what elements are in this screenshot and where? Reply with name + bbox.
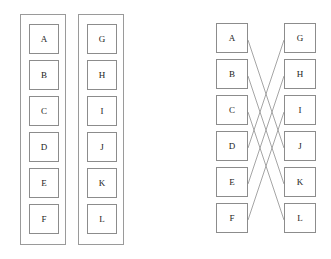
mapping-node-box[interactable]: E	[216, 167, 248, 197]
node-label: I	[299, 106, 302, 115]
mapping-node-box[interactable]: A	[216, 23, 248, 53]
node-label: D	[229, 142, 236, 151]
node-label: C	[229, 106, 235, 115]
mapping-edge	[248, 112, 284, 220]
edge-layer	[0, 0, 331, 259]
node-label: F	[229, 214, 234, 223]
node-label: E	[229, 178, 235, 187]
node-label: A	[229, 34, 236, 43]
mapping-edge	[248, 76, 284, 184]
mapping-edge	[248, 112, 284, 220]
node-label: L	[297, 214, 303, 223]
mapping-figure: A B C D E F G H I J K L	[0, 0, 331, 259]
mapping-node-box[interactable]: G	[284, 23, 316, 53]
node-label: J	[298, 142, 302, 151]
node-label: H	[297, 70, 304, 79]
mapping-node-box[interactable]: J	[284, 131, 316, 161]
node-label: K	[297, 178, 304, 187]
mapping-node-box[interactable]: H	[284, 59, 316, 89]
mapping-edge	[248, 40, 284, 148]
node-label: G	[297, 34, 304, 43]
figure-canvas: A B C D E F G H I J K L A B C D E F G H …	[0, 0, 331, 259]
node-label: B	[229, 70, 235, 79]
mapping-node-box[interactable]: L	[284, 203, 316, 233]
mapping-node-box[interactable]: C	[216, 95, 248, 125]
mapping-node-box[interactable]: D	[216, 131, 248, 161]
mapping-node-box[interactable]: B	[216, 59, 248, 89]
mapping-edge	[248, 40, 284, 148]
mapping-node-box[interactable]: F	[216, 203, 248, 233]
mapping-edge	[248, 76, 284, 184]
mapping-node-box[interactable]: I	[284, 95, 316, 125]
mapping-node-box[interactable]: K	[284, 167, 316, 197]
